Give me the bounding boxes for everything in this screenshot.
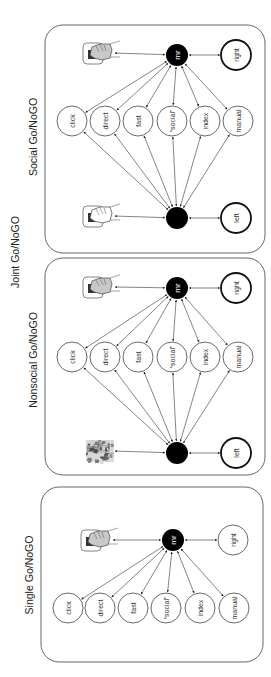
noise-photo-icon [86, 440, 114, 464]
concept-label: click [69, 114, 76, 128]
concept-label: fast [135, 351, 142, 362]
concept-label: manual [235, 109, 242, 132]
hub-node-other [166, 207, 188, 229]
concept-label: direct [102, 348, 109, 365]
concept-label: index [197, 599, 204, 616]
response-label: right [233, 281, 241, 295]
panel-single [41, 487, 263, 662]
concept-label: “social” [163, 596, 170, 619]
response-label: right [233, 48, 241, 62]
concept-label: fast [135, 115, 142, 126]
concept-label: manual [235, 345, 242, 368]
response-label: left [233, 213, 240, 222]
concept-label: index [202, 348, 209, 365]
hub-label: mr [173, 283, 182, 293]
panel-title-single: Single Go/NoGO [23, 536, 35, 615]
response-label: right [230, 533, 238, 547]
concept-label: index [202, 112, 209, 129]
concept-label: direct [97, 599, 104, 616]
concept-label: manual [231, 596, 238, 619]
hub-node-other [166, 442, 188, 464]
hub-label: mr [173, 50, 182, 60]
response-label: left [233, 448, 240, 457]
concept-label: “social” [169, 345, 176, 368]
concept-label: direct [102, 112, 109, 129]
panel-title-social: Social Go/NoGO [27, 98, 39, 176]
hub-label: mr [169, 535, 178, 545]
group-title-joint: Joint Go/NoGO [9, 216, 21, 288]
go-nogo-diagram: Joint Go/NoGO Social Go/NoGO Nonsocial G… [0, 0, 271, 677]
concept-label: “social” [169, 109, 176, 132]
concept-label: fast [130, 602, 137, 613]
concept-label: click [65, 601, 72, 615]
panel-title-nonsocial: Nonsocial Go/NoGO [27, 312, 39, 408]
concept-label: click [69, 350, 76, 364]
